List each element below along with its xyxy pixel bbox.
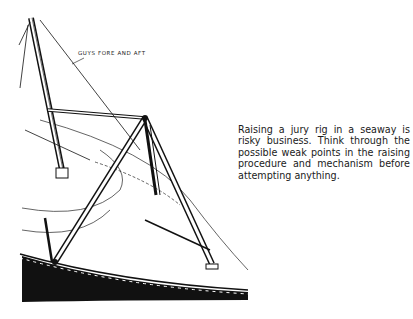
- rig-drawing: [0, 0, 260, 319]
- guys-label: Guys fore and aft: [78, 50, 146, 56]
- jury-rig-illustration: Guys fore and aft: [0, 0, 260, 319]
- figure-caption: Raising a jury rig in a seaway is risky …: [238, 124, 410, 181]
